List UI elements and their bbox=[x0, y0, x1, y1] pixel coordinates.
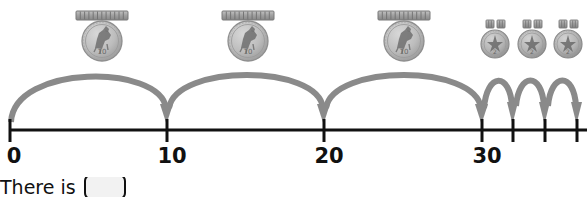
svg-text:2: 2 bbox=[566, 48, 570, 55]
coin-token-group bbox=[486, 20, 578, 28]
axis-tick-label-10: 10 bbox=[157, 146, 186, 167]
coin-roll-icon bbox=[76, 11, 128, 20]
svg-text:10: 10 bbox=[244, 48, 253, 56]
one-unit-coin-icon: 2 bbox=[481, 30, 509, 58]
number-line-axis bbox=[10, 119, 587, 142]
axis-tick-label-0: 0 bbox=[7, 146, 22, 167]
large-coin-group: 10 10 10 bbox=[82, 21, 424, 61]
coin-roll-icon bbox=[378, 11, 430, 20]
jump-arc-big bbox=[169, 75, 323, 108]
ten-unit-coin-icon: 10 bbox=[228, 21, 268, 61]
jump-arc-big bbox=[326, 75, 481, 108]
svg-text:10: 10 bbox=[400, 48, 409, 56]
coin-token-icon bbox=[559, 20, 578, 28]
one-unit-coin-icon: 2 bbox=[554, 30, 582, 58]
ten-unit-coin-icon: 10 bbox=[82, 21, 122, 61]
svg-text:2: 2 bbox=[530, 48, 534, 55]
one-unit-coin-icon: 2 bbox=[518, 30, 546, 58]
axis-tick-label-30: 30 bbox=[472, 146, 501, 167]
axis-tick-label-20: 20 bbox=[314, 146, 343, 167]
coin-token-icon bbox=[523, 20, 542, 28]
jump-arc-group bbox=[11, 75, 576, 122]
worksheet-number-line-diagram: 10 10 10 bbox=[0, 0, 587, 197]
coin-token-icon bbox=[486, 20, 505, 28]
small-coin-group: 2 2 2 bbox=[481, 30, 582, 58]
coin-roll-icon bbox=[222, 11, 274, 20]
ten-unit-coin-icon: 10 bbox=[384, 21, 424, 61]
jump-arc-big bbox=[11, 77, 166, 122]
answer-input-box[interactable] bbox=[84, 177, 126, 197]
svg-text:2: 2 bbox=[493, 48, 497, 55]
svg-text:10: 10 bbox=[98, 48, 107, 56]
question-row: There is bbox=[0, 177, 587, 197]
coin-roll-group bbox=[76, 11, 430, 20]
question-prompt-text: There is bbox=[0, 178, 76, 197]
